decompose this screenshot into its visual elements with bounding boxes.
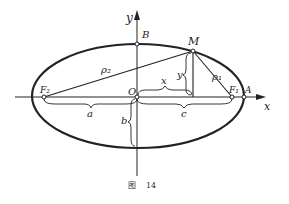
label-x-segment: x xyxy=(161,75,167,86)
point-F2 xyxy=(42,95,46,99)
label-B: B xyxy=(141,29,149,40)
label-b: b xyxy=(121,115,127,126)
label-rho2: ρ₂ xyxy=(100,64,111,75)
caption-prefix: 图 xyxy=(128,181,136,190)
point-B xyxy=(135,42,139,46)
brace-c xyxy=(137,99,232,108)
label-a: a xyxy=(87,108,93,119)
brace-y xyxy=(183,53,191,95)
label-y-segment: y xyxy=(176,69,183,80)
label-y-axis: y xyxy=(125,11,133,25)
brace-b xyxy=(128,99,135,146)
point-M xyxy=(191,49,195,53)
label-O: O xyxy=(128,86,136,97)
brace-a xyxy=(44,99,137,108)
label-F1: F₁ xyxy=(228,85,239,95)
ellipse-diagram: y x B M ρ₂ ρ₁ F₂ O F₁ A x y a c b 图 14 xyxy=(0,0,289,204)
brace-x xyxy=(138,86,192,95)
label-A: A xyxy=(244,85,252,95)
caption-number: 14 xyxy=(146,181,156,190)
point-A xyxy=(242,95,246,99)
label-F2: F₂ xyxy=(39,85,50,95)
point-F1 xyxy=(230,95,234,99)
label-x-axis: x xyxy=(264,100,271,113)
label-c: c xyxy=(181,108,187,119)
label-rho1: ρ₁ xyxy=(211,71,222,82)
label-M: M xyxy=(187,35,200,48)
y-axis-arrow-icon xyxy=(134,10,140,20)
